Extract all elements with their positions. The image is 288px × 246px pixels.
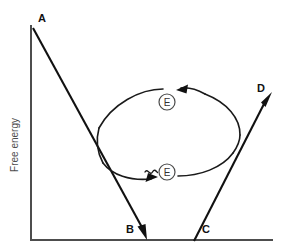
y-axis-title: Free energy bbox=[9, 118, 20, 172]
arrowhead-cycle-top bbox=[176, 85, 188, 94]
arrowhead-cycle-bottom bbox=[146, 173, 159, 182]
reaction-path-a-to-b bbox=[33, 28, 147, 240]
axes-group bbox=[31, 26, 272, 240]
energy-carrier-top: E bbox=[159, 94, 175, 110]
e-label-top: E bbox=[164, 97, 171, 108]
e-label-bottom: E bbox=[164, 167, 171, 178]
node-label-a: A bbox=[38, 12, 46, 24]
cycle-arc-bottom-right bbox=[178, 153, 233, 176]
node-label-d: D bbox=[257, 82, 265, 94]
line-c-d bbox=[194, 100, 266, 241]
squiggle-high-energy-bond-icon bbox=[145, 170, 158, 173]
line-a-b bbox=[33, 28, 144, 231]
cycle-arc-left bbox=[97, 128, 103, 163]
cycle-arc-top-left bbox=[99, 89, 163, 128]
diagram-canvas: Free energy bbox=[0, 0, 288, 246]
arrowhead-to-b bbox=[138, 224, 148, 240]
cycle-arc-right-lower bbox=[233, 135, 240, 153]
cycle-arc-right-upper bbox=[205, 94, 240, 135]
node-label-b: B bbox=[126, 223, 134, 235]
free-energy-coupling-diagram: Free energy bbox=[0, 0, 288, 246]
node-label-c: C bbox=[202, 223, 210, 235]
